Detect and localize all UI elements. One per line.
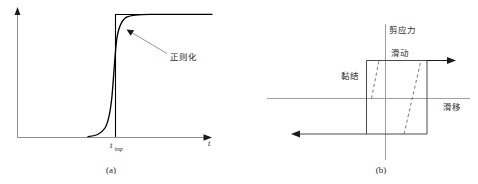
- panel-a-x-tick-label: t imp: [110, 140, 123, 152]
- panel-a-tick-subscript: imp: [115, 146, 124, 152]
- panel-b-dashed-branch-right: [404, 61, 421, 135]
- panel-a-x-axis-label: t: [208, 138, 211, 148]
- panel-a-annotation-label: 正则化: [170, 52, 197, 62]
- panel-a-x-axis: [18, 134, 213, 140]
- panel-b-hysteresis-loop: [298, 61, 427, 135]
- panel-b-dashed-branches: [372, 61, 422, 135]
- panel-a-regularized-curve: [88, 14, 212, 136]
- panel-b-caption: (b): [376, 165, 387, 175]
- panel-a: 正则化 t imp t (a): [15, 7, 212, 175]
- panel-a-tick-symbol: t: [110, 140, 113, 150]
- figure-container: 正则化 t imp t (a): [0, 0, 478, 184]
- panel-b: 剪应力 滑移 黏结 滑动 (b): [267, 24, 470, 175]
- panel-b-arrow-left: [291, 131, 300, 138]
- panel-a-y-axis: [15, 7, 21, 138]
- figure-svg: 正则化 t imp t (a): [0, 0, 478, 184]
- panel-b-dashed-branch-left: [372, 61, 380, 99]
- panel-a-annotation-leader: [127, 30, 168, 54]
- panel-b-y-axis-label: 剪应力: [389, 25, 416, 35]
- panel-b-region-label-bonded: 黏结: [341, 71, 359, 81]
- panel-b-region-label-sliding: 滑动: [391, 48, 409, 58]
- panel-b-arrow-right: [427, 57, 456, 64]
- panel-b-x-axis-label: 滑移: [443, 102, 461, 112]
- panel-a-caption: (a): [106, 165, 116, 175]
